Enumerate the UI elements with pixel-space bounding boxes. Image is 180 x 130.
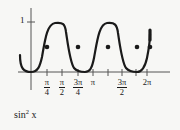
caption-function: sin [14,109,26,120]
sin-squared-curve [20,23,150,72]
figure-caption: sin2 x [14,108,36,120]
data-point [45,45,50,50]
data-point [106,45,111,50]
x-tick-label-2pi: 2π [133,78,161,87]
half-max-dots [45,45,153,50]
y-axis-label-one: 1 [20,15,25,25]
caption-exponent: 2 [26,108,29,115]
data-point [148,45,153,50]
x-tick-label-pi: π [79,78,107,87]
x-tick-label-3pi-over-2: 3π2 [108,78,136,96]
data-point [135,45,140,50]
data-point [76,45,81,50]
caption-variable: x [31,109,36,120]
